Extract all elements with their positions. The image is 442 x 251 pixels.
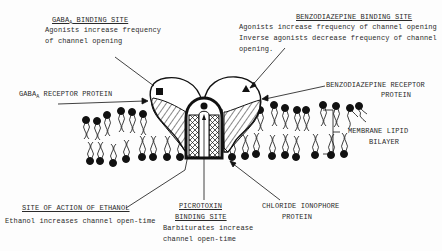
chloride-ionophore-channel xyxy=(186,98,222,200)
picrotoxin-title-2: BINDING SITE xyxy=(175,212,227,223)
gaba-title-rest: BINDING SITE xyxy=(72,16,128,24)
benzo-site-desc-2: Inverse agonists decrease frequency of c… xyxy=(239,33,437,44)
gaba-receptor-main: GABA xyxy=(19,90,36,98)
membrane-lipid-label-1: MEMBRANE LIPID xyxy=(348,126,408,137)
chloride-ionophore-label-1: CHLORIDE IONOPHORE xyxy=(262,201,339,212)
picrotoxin-site-dot-icon xyxy=(201,103,208,110)
ethanol-site-desc: Ethanol increases channel open-time xyxy=(5,216,156,227)
gaba-receptor-protein-label: GABAA RECEPTOR PROTEIN xyxy=(19,89,112,103)
picrotoxin-desc-1: Barbiturates increase xyxy=(163,223,253,234)
benzo-receptor-protein-line2: PROTEIN xyxy=(381,90,411,101)
picrotoxin-title-1: PICROTOXIN xyxy=(179,201,222,212)
gaba-binding-square-icon xyxy=(156,88,163,95)
membrane-lipid-label-2: BILAYER xyxy=(369,137,399,148)
receptor-diagram: GABAA BINDING SITE Agonists increase fre… xyxy=(0,0,442,251)
ethanol-site-title: SITE OF ACTION OF ETHANOL xyxy=(22,203,130,214)
gaba-receptor-rest: RECEPTOR PROTEIN xyxy=(39,90,112,98)
benzo-site-desc-1: Agonists increase frequency of channel o… xyxy=(239,22,437,33)
picrotoxin-desc-2: channel open-time xyxy=(163,234,236,245)
gaba-title-main: GABA xyxy=(52,16,69,24)
gaba-site-desc-1: Agonists increase frequency xyxy=(45,25,161,36)
gaba-site-desc-2: of channel opening xyxy=(45,36,122,47)
chloride-ionophore-label-2: PROTEIN xyxy=(282,212,312,223)
benzo-site-desc-3: opening. xyxy=(239,44,273,55)
